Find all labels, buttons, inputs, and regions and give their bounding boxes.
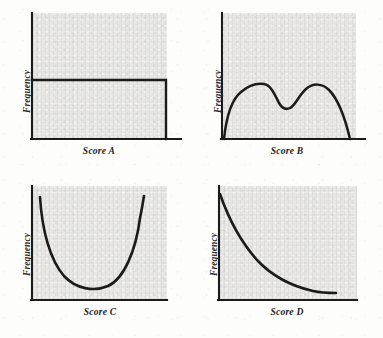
- panel-score-c: Frequency Score C: [0, 168, 192, 338]
- x-axis-label-c: Score C: [45, 307, 155, 317]
- y-axis-label-a: Frequency: [22, 70, 32, 113]
- y-axis-label-b: Frequency: [213, 70, 223, 113]
- distribution-curve-a: [32, 80, 166, 139]
- distribution-curve-c: [40, 196, 144, 289]
- y-axis-label-d: Frequency: [209, 233, 219, 276]
- y-axis-label-c: Frequency: [22, 233, 32, 276]
- figure-page: Frequency Score A Frequency Score B Freq…: [0, 0, 383, 338]
- panel-score-b: Frequency Score B: [191, 0, 383, 169]
- distribution-curve-b: [224, 84, 350, 139]
- x-axis-label-b: Score B: [232, 146, 342, 156]
- panel-score-a: Frequency Score A: [0, 0, 192, 169]
- x-axis-label-d: Score D: [232, 307, 342, 317]
- panel-score-d: Frequency Score D: [191, 168, 383, 338]
- x-axis-label-a: Score A: [44, 146, 154, 156]
- distribution-curve-d: [220, 194, 336, 293]
